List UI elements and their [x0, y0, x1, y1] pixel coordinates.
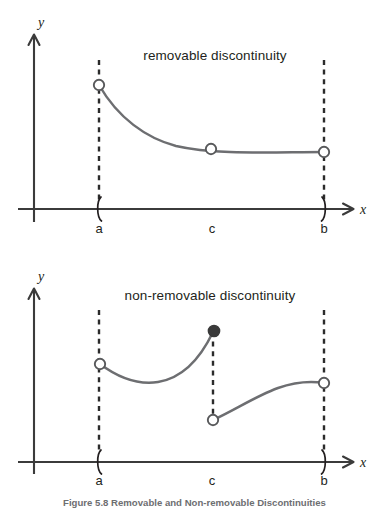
curve-removable — [99, 85, 324, 152]
figure-container: y x removable discontinuity a — [0, 0, 389, 509]
marker-endpoint-b-open — [319, 147, 329, 157]
x-axis-label: x — [359, 455, 367, 470]
curve-left-branch — [100, 332, 213, 383]
marker-endpoint-b-open — [319, 378, 329, 388]
marker-hole-at-c-open — [206, 144, 216, 154]
non-removable-discontinuity-plot: y x non-removable discontinuity — [0, 254, 389, 489]
tick-label-b: b — [320, 221, 327, 236]
marker-left-limit-at-c-closed — [208, 325, 219, 336]
tick-label-a: a — [95, 221, 103, 236]
y-axis — [29, 35, 40, 223]
panel-removable-discontinuity: y x removable discontinuity a — [0, 0, 389, 250]
figure-caption: Figure 5.8 Removable and Non-removable D… — [0, 497, 389, 509]
y-axis — [29, 289, 40, 475]
x-axis — [18, 457, 354, 468]
tick-label-b: b — [320, 473, 327, 488]
marker-endpoint-a-open — [95, 359, 105, 369]
marker-endpoint-a-open — [94, 80, 104, 90]
panel-title-removable: removable discontinuity — [143, 48, 287, 63]
removable-discontinuity-plot: y x removable discontinuity a — [0, 0, 389, 250]
curve-right-branch — [213, 382, 324, 420]
tick-label-a: a — [95, 473, 103, 488]
x-axis-label: x — [359, 202, 367, 217]
panel-non-removable-discontinuity: y x non-removable discontinuity — [0, 254, 389, 489]
tick-label-c: c — [209, 221, 216, 236]
marker-right-limit-at-c-open — [208, 415, 218, 425]
y-axis-label: y — [36, 269, 45, 284]
y-axis-label: y — [36, 15, 45, 30]
x-axis — [18, 204, 354, 215]
tick-label-c: c — [209, 473, 216, 488]
panel-title-non-removable: non-removable discontinuity — [125, 288, 296, 303]
